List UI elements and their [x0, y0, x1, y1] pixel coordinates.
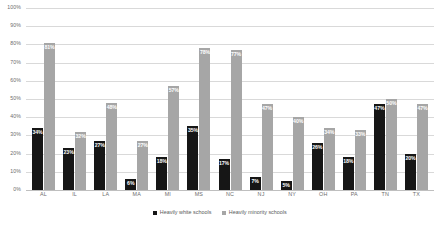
bars-layer: 34%81%23%32%27%48%6%27%18%57%35%78%17%77… [26, 8, 434, 190]
y-tick-label: 90% [10, 24, 21, 29]
x-tick-label: NJ [246, 192, 277, 204]
y-tick-label: 10% [10, 169, 21, 174]
x-tick-label: TX [401, 192, 432, 204]
bar-value-label: 32% [76, 134, 86, 139]
x-tick-label: PA [339, 192, 370, 204]
bar-group: 6%27% [121, 8, 152, 190]
bar-value-label: 20% [405, 156, 415, 161]
bar-value-label: 27% [138, 143, 148, 148]
bar[interactable]: 81% [44, 43, 55, 190]
bar-value-label: 35% [188, 128, 198, 133]
bar-group: 17%77% [214, 8, 245, 190]
bar[interactable]: 32% [75, 132, 86, 190]
x-tick-label: TN [370, 192, 401, 204]
bar[interactable]: 47% [417, 104, 428, 190]
bar-value-label: 47% [262, 106, 272, 111]
y-tick-label: 60% [10, 78, 21, 83]
bar[interactable]: 35% [187, 126, 198, 190]
bar[interactable]: 34% [324, 128, 335, 190]
bar-group: 47%50% [370, 8, 401, 190]
bar[interactable]: 27% [137, 141, 148, 190]
bar-value-label: 33% [355, 132, 365, 137]
bar-value-label: 47% [417, 106, 427, 111]
bar[interactable]: 5% [281, 181, 292, 190]
bar[interactable]: 34% [32, 128, 43, 190]
x-tick-label: NY [277, 192, 308, 204]
x-axis: ALILLAMAMIMSNCNJNYOHPATNTX [26, 192, 434, 204]
bar[interactable]: 77% [231, 50, 242, 190]
bar-value-label: 26% [312, 145, 322, 150]
bar[interactable]: 23% [63, 148, 74, 190]
bar-group: 20%47% [401, 8, 432, 190]
bar-group: 7%47% [246, 8, 277, 190]
legend-label: Heavily white schools [160, 210, 212, 215]
bar-value-label: 50% [386, 101, 396, 106]
bar-value-label: 81% [44, 45, 54, 50]
y-tick-label: 70% [10, 60, 21, 65]
y-tick-label: 0% [13, 187, 21, 192]
bar-group: 26%34% [308, 8, 339, 190]
bar-group: 35%78% [183, 8, 214, 190]
x-tick-label: AL [28, 192, 59, 204]
bar-group: 18%57% [152, 8, 183, 190]
bar-group: 34%81% [28, 8, 59, 190]
bar[interactable]: 18% [343, 157, 354, 190]
bar-value-label: 18% [157, 159, 167, 164]
y-axis: 100% 90% 80% 70% 60% 50% 40% 30% 20% 10%… [0, 8, 24, 190]
y-tick-label: 20% [10, 151, 21, 156]
bar-chart: 100% 90% 80% 70% 60% 50% 40% 30% 20% 10%… [0, 0, 440, 232]
x-tick-label: OH [308, 192, 339, 204]
bar-group: 18%33% [339, 8, 370, 190]
bar-value-label: 34% [324, 130, 334, 135]
bar[interactable]: 33% [355, 130, 366, 190]
y-tick-label: 40% [10, 115, 21, 120]
x-tick-label: MS [183, 192, 214, 204]
x-tick-label: MA [121, 192, 152, 204]
bar[interactable]: 40% [293, 117, 304, 190]
bar-value-label: 6% [127, 181, 134, 186]
x-tick-label: MI [152, 192, 183, 204]
y-tick-label: 50% [10, 96, 21, 101]
bar[interactable]: 48% [106, 103, 117, 190]
bar-group: 23%32% [59, 8, 90, 190]
x-tick-label: NC [214, 192, 245, 204]
bar[interactable]: 57% [168, 86, 179, 190]
bar[interactable]: 50% [386, 99, 397, 190]
legend-item-heavily-white-schools[interactable]: Heavily white schools [153, 210, 211, 215]
bar[interactable]: 78% [199, 48, 210, 190]
legend-swatch-icon [222, 211, 226, 215]
bar[interactable]: 27% [94, 141, 105, 190]
bar-value-label: 7% [251, 179, 258, 184]
x-tick-label: LA [90, 192, 121, 204]
legend-item-heavily-minority-schools[interactable]: Heavily minority schools [222, 210, 286, 215]
plot-area: 34%81%23%32%27%48%6%27%18%57%35%78%17%77… [26, 8, 434, 190]
bar-value-label: 23% [64, 150, 74, 155]
y-tick-label: 100% [7, 5, 21, 10]
bar-group: 27%48% [90, 8, 121, 190]
bar-value-label: 57% [169, 88, 179, 93]
legend-label: Heavily minority schools [229, 210, 287, 215]
bar[interactable]: 17% [219, 159, 230, 190]
bar[interactable]: 7% [250, 177, 261, 190]
bar-value-label: 17% [219, 161, 229, 166]
bar-value-label: 40% [293, 119, 303, 124]
bar[interactable]: 18% [156, 157, 167, 190]
y-tick-label: 30% [10, 133, 21, 138]
legend-swatch-icon [153, 211, 157, 215]
bar-group: 5%40% [277, 8, 308, 190]
bar[interactable]: 6% [125, 179, 136, 190]
bar[interactable]: 26% [312, 143, 323, 190]
bar[interactable]: 20% [405, 154, 416, 190]
bar-value-label: 27% [95, 143, 105, 148]
bar-value-label: 47% [374, 106, 384, 111]
bar-value-label: 18% [343, 159, 353, 164]
bar[interactable]: 47% [374, 104, 385, 190]
chart-legend: Heavily white schools Heavily minority s… [0, 210, 440, 215]
bar[interactable]: 47% [262, 104, 273, 190]
bar-value-label: 78% [200, 50, 210, 55]
y-tick-label: 80% [10, 42, 21, 47]
bar-value-label: 77% [231, 52, 241, 57]
bar-value-label: 48% [107, 105, 117, 110]
bar-value-label: 5% [283, 183, 290, 188]
x-tick-label: IL [59, 192, 90, 204]
